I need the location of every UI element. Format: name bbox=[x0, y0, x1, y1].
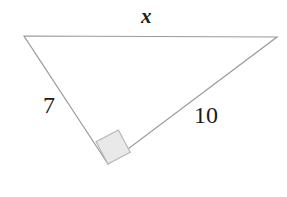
label-leg-10: 10 bbox=[194, 103, 218, 127]
right-triangle-figure: x 7 10 bbox=[0, 0, 287, 197]
label-leg-7: 7 bbox=[43, 93, 55, 117]
right-angle-square-icon bbox=[96, 130, 130, 164]
label-hypotenuse-x: x bbox=[141, 6, 152, 27]
triangle-outline bbox=[24, 36, 277, 164]
